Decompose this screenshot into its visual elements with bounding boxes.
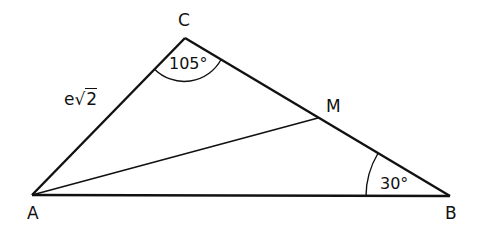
segment-am	[32, 118, 318, 195]
side-label-ac: e√2	[64, 91, 97, 108]
vertex-label-a: A	[27, 205, 39, 222]
angle-label-c: 105°	[169, 56, 208, 72]
side-bc	[185, 38, 450, 196]
angle-label-b: 30°	[380, 176, 408, 192]
vertex-label-b: B	[445, 205, 457, 222]
diagram-lines	[0, 0, 478, 234]
angle-arc-b	[366, 154, 378, 197]
vertex-label-m: M	[326, 98, 341, 115]
vertex-label-c: C	[178, 12, 190, 29]
triangle-diagram: C M A B 105° 30° e√2	[0, 0, 478, 234]
side-ca	[32, 38, 185, 195]
side-ab	[32, 195, 450, 196]
side-label-prefix: e	[64, 89, 74, 109]
side-label-radicand: 2	[85, 88, 97, 109]
sqrt-symbol: √	[74, 91, 85, 108]
